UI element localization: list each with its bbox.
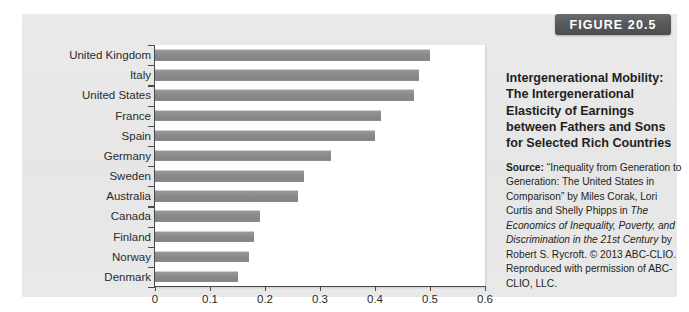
- category-label: Finland: [113, 231, 151, 243]
- x-axis-tick: [430, 286, 431, 291]
- bar: [155, 90, 414, 101]
- category-label: Italy: [130, 69, 151, 81]
- x-axis-tick-label: 0.4: [367, 293, 383, 305]
- x-axis-tick: [375, 286, 376, 291]
- x-axis-tick: [320, 286, 321, 291]
- bar: [155, 272, 238, 283]
- chart-row: Finland: [22, 227, 492, 247]
- x-axis-tick-label: 0.2: [257, 293, 273, 305]
- x-axis-tick-label: 0: [152, 293, 158, 305]
- y-axis-tick: [148, 247, 155, 248]
- bar: [155, 251, 249, 262]
- category-label: France: [115, 110, 151, 122]
- category-label: Germany: [104, 150, 151, 162]
- y-axis-tick: [148, 126, 155, 127]
- chart-row: United States: [22, 85, 492, 105]
- y-axis-tick: [148, 85, 155, 86]
- y-axis-tick: [148, 65, 155, 66]
- x-axis-tick: [485, 286, 486, 291]
- chart-row: Denmark: [22, 267, 492, 287]
- chart-row: Norway: [22, 247, 492, 267]
- category-label: United Kingdom: [69, 49, 151, 61]
- chart-row: Sweden: [22, 166, 492, 186]
- x-axis-tick-label: 0.5: [422, 293, 438, 305]
- bar: [155, 70, 419, 81]
- y-axis-tick: [148, 45, 155, 46]
- y-axis-tick: [148, 166, 155, 167]
- bar: [155, 231, 254, 242]
- category-label: Canada: [111, 210, 151, 222]
- category-label: Norway: [112, 251, 151, 263]
- x-axis-tick: [265, 286, 266, 291]
- y-axis-tick: [148, 106, 155, 107]
- bar: [155, 191, 298, 202]
- bar: [155, 171, 304, 182]
- bar: [155, 211, 260, 222]
- category-label: Denmark: [104, 271, 151, 283]
- bar: [155, 151, 331, 162]
- x-axis-tick: [210, 286, 211, 291]
- caption-source: Source: “Inequality from Generation to G…: [506, 161, 682, 291]
- bar: [155, 130, 375, 141]
- chart-row: Australia: [22, 186, 492, 206]
- category-label: Sweden: [109, 170, 151, 182]
- y-axis-tick: [148, 267, 155, 268]
- figure-number-badge: FIGURE 20.5: [555, 14, 671, 35]
- y-axis-tick: [148, 186, 155, 187]
- x-axis-tick-label: 0.1: [202, 293, 218, 305]
- chart-row: Germany: [22, 146, 492, 166]
- chart-row: Italy: [22, 65, 492, 85]
- y-axis-tick: [148, 227, 155, 228]
- x-axis-tick-label: 0.3: [312, 293, 328, 305]
- caption-block: Intergenerational Mobility: The Intergen…: [506, 70, 682, 291]
- x-axis-tick-label: 0.6: [477, 293, 493, 305]
- caption-title: Intergenerational Mobility: The Intergen…: [506, 70, 682, 152]
- source-word: Source:: [506, 162, 544, 173]
- chart-row: France: [22, 106, 492, 126]
- category-label: United States: [82, 89, 151, 101]
- chart-row: Canada: [22, 206, 492, 226]
- y-axis-tick: [148, 146, 155, 147]
- figure-panel: FIGURE 20.5 United KingdomItalyUnited St…: [22, 14, 677, 297]
- x-axis-tick: [155, 286, 156, 291]
- bar: [155, 50, 430, 61]
- category-label: Australia: [106, 190, 151, 202]
- figure-badge-label: FIGURE 20.5: [569, 18, 656, 32]
- chart-row: United Kingdom: [22, 45, 492, 65]
- y-axis-tick: [148, 206, 155, 207]
- bar-chart: United KingdomItalyUnited StatesFranceSp…: [22, 24, 492, 297]
- chart-row: Spain: [22, 126, 492, 146]
- bar: [155, 110, 381, 121]
- category-label: Spain: [122, 130, 151, 142]
- y-axis-tick: [148, 287, 155, 288]
- chart-rows: United KingdomItalyUnited StatesFranceSp…: [22, 45, 492, 287]
